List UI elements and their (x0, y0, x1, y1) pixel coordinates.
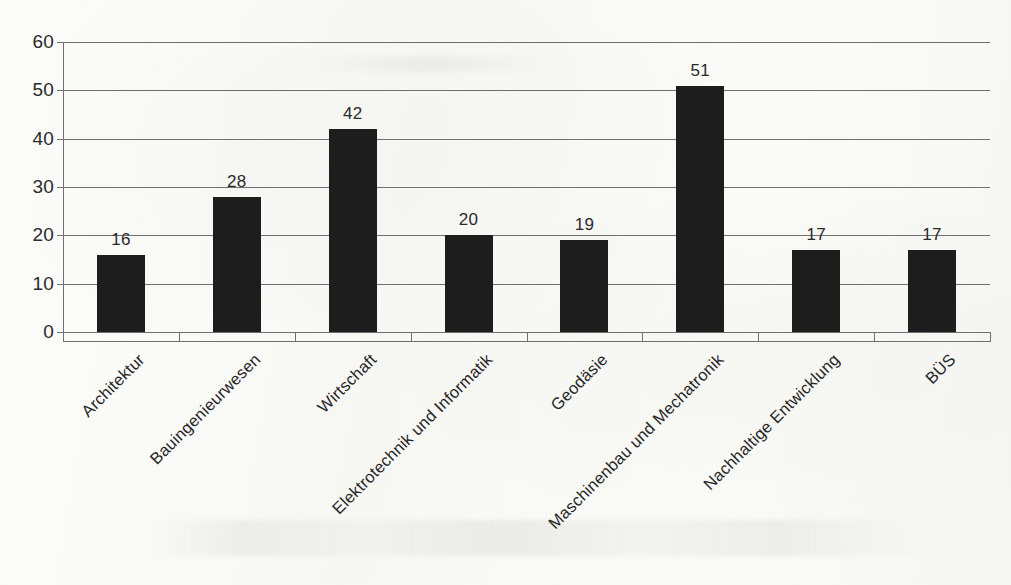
x-tick-mark (411, 332, 412, 342)
bar-value-label: 28 (227, 172, 247, 192)
x-tick-mark (874, 332, 875, 342)
y-tick-label-20: 20 (32, 224, 54, 246)
bar-value-label: 17 (922, 225, 942, 245)
bar-value-label: 19 (575, 215, 595, 235)
bar (792, 250, 840, 332)
x-category-label: Wirtschaft (313, 350, 380, 417)
bar-value-label: 42 (343, 104, 363, 124)
gridline-60 (63, 42, 990, 43)
y-tick-mark-60 (57, 42, 64, 43)
x-tick-mark (179, 332, 180, 342)
y-tick-label-30: 30 (32, 176, 54, 198)
x-tick-mark (990, 332, 991, 342)
bar (329, 129, 377, 332)
x-category-label: Architektur (78, 350, 149, 421)
bar (908, 250, 956, 332)
gridline-20 (63, 235, 990, 236)
x-category-label: BÜS (922, 350, 960, 388)
y-tick-mark-40 (57, 139, 64, 140)
bar (445, 235, 493, 332)
gridline-40 (63, 139, 990, 140)
scan-artifact-bottom (150, 520, 930, 556)
y-tick-mark-20 (57, 235, 64, 236)
x-tick-mark (527, 332, 528, 342)
y-tick-mark-10 (57, 284, 64, 285)
y-tick-label-40: 40 (32, 128, 54, 150)
bar-value-label: 16 (111, 230, 131, 250)
y-tick-label-10: 10 (32, 273, 54, 295)
x-tick-mark (758, 332, 759, 342)
bar-value-label: 51 (691, 61, 711, 81)
plot-area: 0102030405060 1628422019511717 (63, 42, 990, 332)
x-tick-mark (295, 332, 296, 342)
bar (676, 86, 724, 333)
y-tick-label-50: 50 (32, 79, 54, 101)
y-tick-mark-50 (57, 90, 64, 91)
gridline-10 (63, 284, 990, 285)
bar (560, 240, 608, 332)
bar-value-label: 17 (806, 225, 826, 245)
y-tick-label-60: 60 (32, 31, 54, 53)
gridline-50 (63, 90, 990, 91)
x-category-label: Bauingenieurwesen (146, 350, 264, 468)
x-category-label: Geodäsie (547, 350, 612, 415)
y-tick-mark-30 (57, 187, 64, 188)
bar-value-label: 20 (459, 210, 479, 230)
x-category-label: Nachhaltige Entwicklung (700, 350, 844, 494)
bar (213, 197, 261, 332)
x-tick-mark (642, 332, 643, 342)
bar (97, 255, 145, 332)
gridline-30 (63, 187, 990, 188)
chart-page: 0102030405060 1628422019511717 Architekt… (0, 0, 1011, 585)
x-tick-mark (63, 332, 64, 342)
y-tick-label-0: 0 (43, 321, 54, 343)
